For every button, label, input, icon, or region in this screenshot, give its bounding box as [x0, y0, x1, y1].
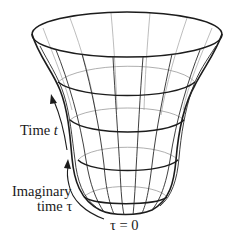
arrow-up-icon	[64, 159, 71, 169]
top-rim	[32, 12, 222, 57]
arrow-up-icon	[50, 94, 57, 104]
imaginary-time-label-line2: time τ	[37, 198, 72, 214]
tau-zero-label: τ = 0	[110, 217, 139, 233]
imaginary-time-label-line1: Imaginary	[12, 183, 72, 199]
back-meridians	[43, 13, 212, 115]
time-label: Time t	[20, 122, 59, 138]
funnel-universe-diagram: Time t Imaginary time τ τ = 0	[0, 0, 237, 243]
